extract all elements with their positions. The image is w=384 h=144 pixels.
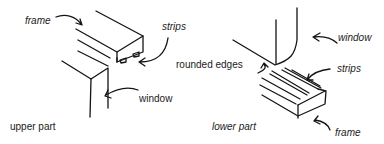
strips-arrow — [307, 69, 330, 80]
upper-arrows — [56, 15, 168, 98]
upper-frame-drawing — [76, 11, 143, 66]
frame-arrow — [56, 15, 82, 25]
frame-arrow — [314, 116, 330, 130]
lower-window-label: window — [338, 33, 371, 43]
rounded-edges-arrow — [258, 63, 268, 73]
upper-window-drawing — [62, 61, 108, 117]
lower-frame-label: frame — [335, 128, 361, 138]
lower-strips-label: strips — [337, 64, 361, 74]
lower-part-caption: lower part — [212, 122, 256, 132]
upper-window-label: window — [139, 94, 172, 104]
diagram-canvas — [0, 0, 384, 144]
lower-window-drawing — [233, 8, 297, 65]
window-arrow — [313, 33, 337, 43]
window-arrow — [105, 88, 138, 98]
upper-strips-label: strips — [162, 22, 186, 32]
lower-strips-drawing — [270, 68, 321, 95]
upper-frame-label: frame — [25, 16, 51, 26]
upper-part-caption: upper part — [10, 122, 56, 132]
rounded-edges-label: rounded edges — [176, 60, 243, 70]
